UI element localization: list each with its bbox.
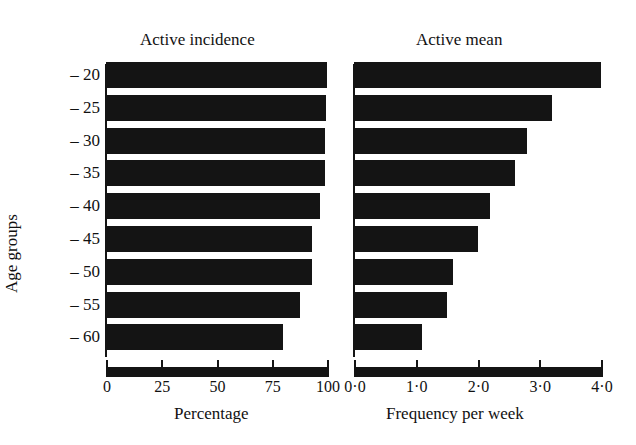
bar--35 bbox=[106, 160, 325, 186]
bar--35 bbox=[354, 160, 515, 186]
y-tick-label: – 55 bbox=[60, 295, 100, 315]
x-tick bbox=[106, 360, 108, 368]
y-tick-label: – 20 bbox=[60, 65, 100, 85]
x-axis-line bbox=[106, 367, 329, 377]
y-tick-label: – 45 bbox=[60, 229, 100, 249]
y-tick-label: – 30 bbox=[60, 131, 100, 151]
x-tick bbox=[217, 360, 219, 368]
x-tick-label: 100 bbox=[316, 378, 340, 396]
y-tick-label: – 35 bbox=[60, 163, 100, 183]
x-tick bbox=[539, 360, 541, 368]
bar--25 bbox=[106, 95, 326, 121]
y-tick-label: – 25 bbox=[60, 98, 100, 118]
y-tick-label: – 50 bbox=[60, 262, 100, 282]
bar--45 bbox=[354, 226, 478, 252]
bar--50 bbox=[106, 259, 312, 285]
x-tick bbox=[272, 360, 274, 368]
left-x-axis-label: Percentage bbox=[174, 404, 249, 424]
bar--30 bbox=[354, 128, 527, 154]
bar--55 bbox=[354, 292, 447, 318]
left-panel-title: Active incidence bbox=[140, 30, 255, 50]
x-tick bbox=[161, 360, 163, 368]
bar--55 bbox=[106, 292, 300, 318]
bar--45 bbox=[106, 226, 312, 252]
right-panel-title: Active mean bbox=[416, 30, 502, 50]
x-tick-label: 0·0 bbox=[344, 378, 365, 396]
x-tick-label: 1·0 bbox=[406, 378, 427, 396]
bar--20 bbox=[354, 62, 601, 88]
y-axis-label: Age groups bbox=[2, 214, 22, 293]
bar--60 bbox=[354, 324, 422, 350]
bar--25 bbox=[354, 95, 552, 121]
x-tick bbox=[601, 360, 603, 368]
x-tick bbox=[478, 360, 480, 368]
bar--50 bbox=[354, 259, 453, 285]
bar--20 bbox=[106, 62, 327, 88]
x-tick-label: 2·0 bbox=[468, 378, 489, 396]
x-tick bbox=[327, 360, 329, 368]
x-tick-label: 4·0 bbox=[591, 378, 612, 396]
y-tick-label: – 60 bbox=[60, 327, 100, 347]
x-tick-label: 25 bbox=[154, 378, 170, 396]
bar--30 bbox=[106, 128, 325, 154]
x-tick-label: 3·0 bbox=[530, 378, 551, 396]
right-x-axis-label: Frequency per week bbox=[386, 404, 524, 424]
x-axis-line bbox=[354, 367, 603, 377]
bar--40 bbox=[354, 193, 490, 219]
x-tick-label: 50 bbox=[210, 378, 226, 396]
bar--60 bbox=[106, 324, 283, 350]
bar--40 bbox=[106, 193, 320, 219]
x-tick bbox=[354, 360, 356, 368]
x-tick-label: 0 bbox=[103, 378, 111, 396]
x-tick bbox=[416, 360, 418, 368]
x-tick-label: 75 bbox=[265, 378, 281, 396]
y-tick-label: – 40 bbox=[60, 196, 100, 216]
